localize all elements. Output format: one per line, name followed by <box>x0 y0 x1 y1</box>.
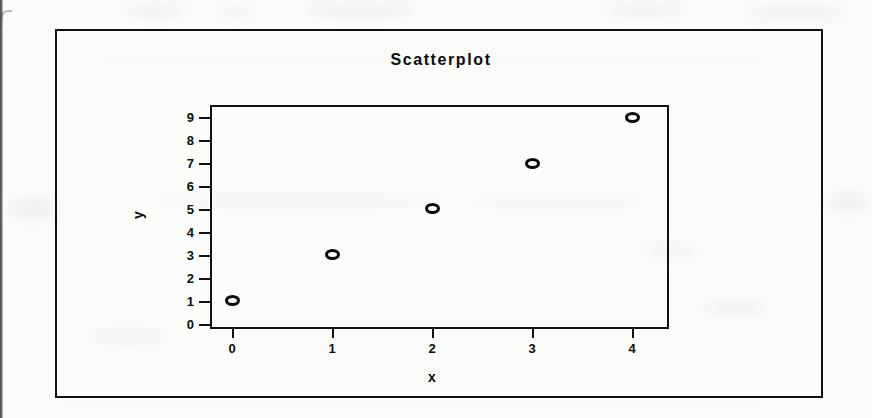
y-tick-mark <box>199 232 212 234</box>
y-tick-mark <box>199 186 212 188</box>
plot-area: y 0123456789 01234 x <box>210 105 669 329</box>
data-point <box>325 249 340 260</box>
scan-streak <box>60 404 760 407</box>
scan-edge-artifact <box>0 0 3 418</box>
y-axis-label: y <box>130 211 146 219</box>
y-tick-mark <box>199 140 212 142</box>
scan-smudge <box>826 190 870 214</box>
y-tick-mark <box>199 117 212 119</box>
y-tick-mark <box>199 324 212 326</box>
y-tick-mark <box>199 301 212 303</box>
x-axis-label: x <box>419 369 445 385</box>
y-tick-label: 9 <box>170 111 194 124</box>
x-tick-label: 0 <box>219 341 245 356</box>
scan-corner-artifact <box>0 10 12 28</box>
scanned-page: Scatterplot y 0123456789 01234 x <box>0 0 872 418</box>
x-tick-mark <box>632 327 634 338</box>
y-tick-mark <box>199 209 212 211</box>
y-tick-label: 4 <box>170 226 194 239</box>
scan-smudge <box>300 2 420 18</box>
figure-frame: Scatterplot y 0123456789 01234 x <box>55 29 823 398</box>
y-tick-label: 2 <box>170 272 194 285</box>
y-tick-label: 7 <box>170 157 194 170</box>
x-tick-mark <box>332 327 334 338</box>
x-tick-label: 2 <box>419 341 445 356</box>
scan-smudge <box>120 4 190 18</box>
x-tick-mark <box>532 327 534 338</box>
y-tick-mark <box>199 278 212 280</box>
data-point <box>625 112 640 123</box>
x-tick-mark <box>432 327 434 338</box>
y-tick-label: 5 <box>170 203 194 216</box>
scan-smudge <box>740 5 850 20</box>
x-tick-mark <box>232 327 234 338</box>
chart-title: Scatterplot <box>57 51 825 69</box>
y-tick-label: 8 <box>170 134 194 147</box>
y-tick-label: 6 <box>170 180 194 193</box>
x-tick-label: 4 <box>619 341 645 356</box>
y-tick-label: 0 <box>170 318 194 331</box>
x-tick-label: 3 <box>519 341 545 356</box>
x-tick-label: 1 <box>319 341 345 356</box>
y-tick-mark <box>199 255 212 257</box>
y-tick-label: 3 <box>170 249 194 262</box>
data-point <box>525 158 540 169</box>
y-tick-mark <box>199 163 212 165</box>
y-tick-label: 1 <box>170 295 194 308</box>
data-point <box>425 203 440 214</box>
scan-smudge <box>215 6 255 18</box>
data-point <box>225 295 240 306</box>
scan-smudge <box>8 196 60 222</box>
scan-smudge <box>600 3 690 17</box>
